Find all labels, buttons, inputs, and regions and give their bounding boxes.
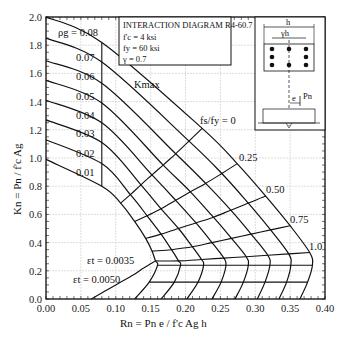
y-tick-label: 1.2 (29, 125, 42, 136)
fy-value: fy = 60 ksi (123, 43, 160, 53)
cross-line (156, 253, 310, 262)
rho-label-0.04: 0.04 (76, 110, 95, 121)
y-axis-title: Kn = Pn / f'c Ag (11, 143, 23, 215)
interaction-diagram-chart: 0.000.050.100.150.200.250.300.350.400.00… (0, 0, 348, 348)
y-tick-label: 0.6 (29, 209, 42, 220)
fs-label-1.0: 1.0 (309, 241, 322, 252)
y-tick-label: 1.8 (29, 40, 42, 51)
rho-label-0.02: 0.02 (76, 148, 94, 159)
gamma-value: γ = 0.7 (122, 54, 146, 64)
x-tick-label: 0.20 (176, 303, 194, 314)
x-tick-label: 0.25 (211, 303, 229, 314)
kmax-label: Kmax (134, 79, 160, 90)
fc-value: f'c = 4 ksi (123, 32, 157, 42)
x-tick-label: 0.05 (72, 303, 90, 314)
rho-label-0.07: 0.07 (76, 52, 94, 63)
x-tick-label: 0.40 (316, 303, 334, 314)
rho-label-0.03: 0.03 (76, 128, 94, 139)
y-tick-label: 0.0 (29, 294, 42, 305)
x-tick-label: 0.30 (246, 303, 264, 314)
y-tick-label: 0.4 (29, 238, 43, 249)
section-sketch: h γh e Pn (255, 17, 325, 130)
rho-label-0.06: 0.06 (76, 71, 94, 82)
fs-label-0.75: 0.75 (290, 214, 308, 225)
y-tick-label: 1.4 (29, 97, 43, 108)
y-tick-label: 0.2 (29, 266, 42, 277)
rho-label-0.08: ρg = 0.08 (58, 27, 98, 38)
rho-curve (46, 120, 204, 299)
x-axis-title: Rn = Pn e / f'c Ag h (120, 317, 207, 329)
fs-label-0.25: 0.25 (239, 152, 257, 163)
section-gamma-h-label: γh (280, 28, 290, 38)
y-tick-label: 2.0 (29, 12, 42, 23)
strain-label-0.0050: εt = 0.0050 (73, 274, 120, 285)
section-e-label: e (292, 93, 296, 103)
x-tick-label: 0.15 (141, 303, 159, 314)
x-tick-label: 0.10 (107, 303, 125, 314)
y-tick-label: 1.0 (29, 153, 42, 164)
diagram-title: INTERACTION DIAGRAM R4-60.7 (123, 20, 253, 30)
y-tick-label: 1.6 (29, 68, 42, 79)
strain-label-0.0035: εt = 0.0035 (87, 255, 134, 266)
fs-label-0: fs/fy = 0 (200, 115, 236, 126)
y-tick-label: 0.8 (29, 181, 42, 192)
section-pn-label: Pn (303, 91, 313, 101)
rho-label-0.01: 0.01 (76, 167, 94, 178)
cross-line (152, 226, 290, 251)
x-tick-label: 0.35 (281, 303, 299, 314)
rho-label-0.05: 0.05 (76, 91, 94, 102)
fs-label-0.50: 0.50 (266, 184, 284, 195)
